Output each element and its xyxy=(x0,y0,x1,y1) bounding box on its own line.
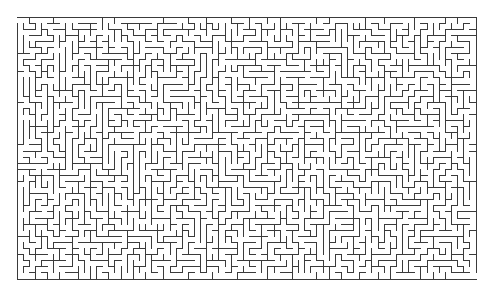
maze-entrance[interactable] xyxy=(14,17,20,23)
maze-board xyxy=(0,0,493,293)
maze-exit[interactable] xyxy=(473,273,479,279)
maze-background xyxy=(0,0,493,293)
